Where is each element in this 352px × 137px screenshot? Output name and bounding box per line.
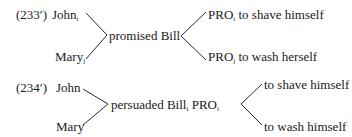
complement-wash: to wash himself [264, 120, 346, 133]
index-subscript: j [233, 57, 235, 65]
subject-john: Johni [52, 8, 79, 21]
verb-phrase: promised Bill [109, 29, 180, 42]
verb-phrase: persuaded Billi PROi [111, 98, 219, 111]
branch-line-shave-234 [241, 84, 262, 104]
branch-line-pro-i-233 [181, 12, 206, 36]
branch-line-john-234 [83, 89, 108, 104]
complement-pro-j: PROj to wash herself [208, 50, 317, 63]
subject-mary: Mary [56, 120, 84, 133]
index-subscript: i [217, 105, 219, 113]
complement-pro-i: PROi to shave himself [208, 8, 324, 21]
branch-line-mary-234 [83, 104, 108, 125]
verb: promised [109, 28, 157, 43]
index-subscript: i [77, 15, 79, 23]
verb: persuaded [111, 97, 164, 112]
branch-line-john-233 [86, 13, 107, 35]
object: Bill [161, 28, 181, 43]
example-label: (233′) [16, 8, 47, 21]
index-subscript: i [186, 105, 188, 113]
index-subscript: j [83, 57, 85, 65]
subject-john: John [56, 81, 81, 94]
index-subscript: i [233, 15, 235, 23]
branch-line-wash-234 [241, 104, 262, 125]
complement-shave: to shave himself [264, 78, 349, 91]
pro: PRO [192, 97, 217, 112]
object: Bill [167, 97, 187, 112]
example-label: (234′) [16, 81, 47, 94]
branch-line-pro-j-233 [181, 36, 206, 60]
subject-mary: Maryj [55, 50, 85, 63]
branch-line-mary-233 [86, 35, 107, 59]
